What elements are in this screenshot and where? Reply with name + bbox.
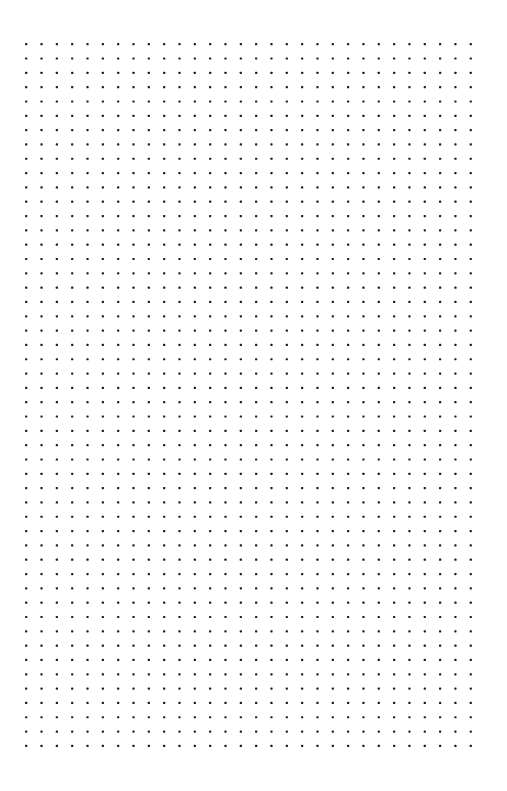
grid-dot [178, 630, 180, 632]
grid-dot [178, 444, 180, 446]
grid-dot [25, 129, 27, 131]
grid-dot [209, 301, 211, 303]
grid-dot [424, 86, 426, 88]
grid-dot [40, 344, 42, 346]
grid-dot [86, 430, 88, 432]
grid-dot [178, 301, 180, 303]
grid-dot [71, 688, 73, 690]
grid-dot [301, 172, 303, 174]
grid-dot [454, 57, 456, 59]
grid-dot [439, 272, 441, 274]
grid-dot [316, 673, 318, 675]
grid-dot [209, 415, 211, 417]
grid-dot [362, 43, 364, 45]
grid-dot [132, 315, 134, 317]
grid-dot [56, 559, 58, 561]
grid-dot [347, 387, 349, 389]
grid-dot [255, 172, 257, 174]
grid-dot [132, 516, 134, 518]
grid-dot [102, 301, 104, 303]
grid-dot [408, 72, 410, 74]
grid-dot [424, 544, 426, 546]
grid-dot [86, 415, 88, 417]
grid-dot [454, 716, 456, 718]
grid-dot [439, 129, 441, 131]
grid-dot [439, 387, 441, 389]
grid-dot [25, 115, 27, 117]
grid-dot [209, 530, 211, 532]
grid-dot [286, 630, 288, 632]
grid-dot [163, 659, 165, 661]
grid-dot [286, 716, 288, 718]
grid-dot [347, 244, 349, 246]
grid-dot [286, 301, 288, 303]
grid-dot [71, 158, 73, 160]
grid-dot [194, 229, 196, 231]
grid-dot [378, 387, 380, 389]
grid-dot [347, 458, 349, 460]
grid-dot [86, 258, 88, 260]
grid-dot [148, 630, 150, 632]
grid-dot [148, 57, 150, 59]
grid-dot [347, 57, 349, 59]
grid-dot [148, 158, 150, 160]
grid-dot [163, 458, 165, 460]
grid-dot [347, 201, 349, 203]
grid-dot [362, 186, 364, 188]
grid-dot [316, 659, 318, 661]
grid-dot [56, 716, 58, 718]
grid-dot [163, 530, 165, 532]
grid-dot [178, 688, 180, 690]
grid-dot [347, 702, 349, 704]
grid-dot [378, 401, 380, 403]
grid-dot [454, 616, 456, 618]
grid-dot [194, 630, 196, 632]
grid-dot [393, 129, 395, 131]
grid-dot [286, 387, 288, 389]
grid-dot [270, 516, 272, 518]
grid-dot [408, 344, 410, 346]
grid-dot [332, 387, 334, 389]
grid-dot [117, 559, 119, 561]
grid-dot [117, 444, 119, 446]
grid-dot [148, 745, 150, 747]
grid-dot [270, 158, 272, 160]
grid-dot [25, 344, 27, 346]
grid-dot [224, 158, 226, 160]
grid-dot [163, 43, 165, 45]
grid-dot [316, 344, 318, 346]
grid-dot [332, 115, 334, 117]
grid-dot [86, 344, 88, 346]
grid-dot [408, 86, 410, 88]
grid-dot [332, 43, 334, 45]
grid-dot [286, 530, 288, 532]
grid-dot [40, 258, 42, 260]
grid-dot [470, 645, 472, 647]
grid-dot [25, 143, 27, 145]
grid-dot [117, 602, 119, 604]
grid-dot [117, 473, 119, 475]
grid-dot [255, 587, 257, 589]
grid-dot [378, 186, 380, 188]
grid-dot [424, 287, 426, 289]
grid-dot [102, 645, 104, 647]
grid-dot [148, 401, 150, 403]
grid-dot [209, 616, 211, 618]
grid-dot [56, 401, 58, 403]
grid-dot [25, 287, 27, 289]
grid-dot [301, 272, 303, 274]
grid-dot [424, 688, 426, 690]
grid-dot [378, 544, 380, 546]
grid-dot [194, 387, 196, 389]
grid-dot [240, 702, 242, 704]
grid-dot [178, 158, 180, 160]
grid-dot [347, 616, 349, 618]
grid-dot [224, 57, 226, 59]
grid-dot [255, 358, 257, 360]
grid-dot [40, 716, 42, 718]
grid-dot [316, 516, 318, 518]
grid-dot [454, 730, 456, 732]
grid-dot [255, 401, 257, 403]
grid-dot [56, 673, 58, 675]
grid-dot [470, 716, 472, 718]
